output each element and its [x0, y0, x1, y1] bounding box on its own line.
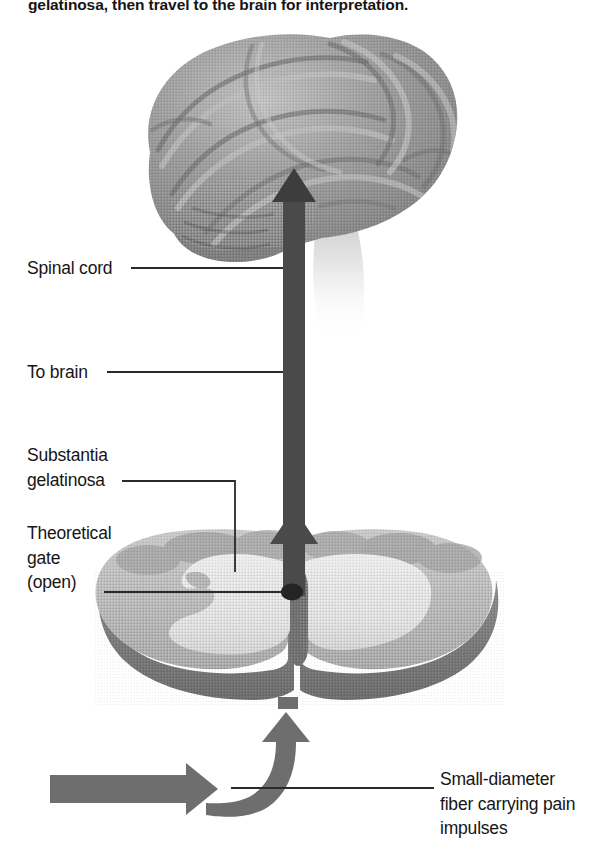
label-small-diameter-fiber: Small-diameter fiber carrying pain impul…	[440, 767, 600, 841]
label-spinal-cord: Spinal cord	[27, 256, 112, 281]
leader-lines	[104, 268, 434, 788]
afferent-fiber-arrows	[50, 697, 310, 817]
fiber-cord-junction	[278, 697, 298, 709]
arrow-curved-up-into-dorsal-horn	[206, 712, 310, 817]
arrow-right-into-cord	[50, 763, 218, 815]
figure-container: gelatinosa, then travel to the brain for…	[0, 0, 601, 852]
label-theoretical-gate: Theoretical gate (open)	[27, 521, 111, 595]
diagram-artwork	[0, 0, 601, 852]
label-to-brain: To brain	[27, 360, 88, 385]
label-substantia-gelatinosa: Substantia gelatinosa	[27, 443, 108, 492]
